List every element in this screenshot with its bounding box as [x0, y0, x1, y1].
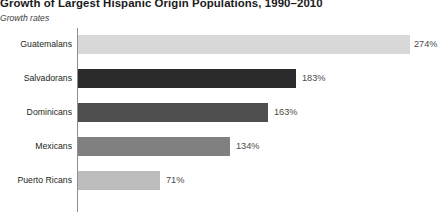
category-label: Guatemalans [20, 39, 72, 50]
value-label: 71% [166, 175, 184, 186]
bar-salvadorans [78, 69, 296, 88]
chart-title: Growth of Largest Hispanic Origin Popula… [0, 0, 446, 10]
bar-row: Dominicans 163% [0, 101, 446, 134]
category-label: Mexicans [35, 141, 72, 152]
bar-row: Guatemalans 274% [0, 33, 446, 66]
category-label: Salvadorans [24, 73, 72, 84]
bar-guatemalans [78, 35, 410, 54]
bar-chart-figure: Growth of Largest Hispanic Origin Popula… [0, 0, 446, 212]
bar-puerto-ricans [78, 171, 160, 190]
category-label: Puerto Ricans [17, 175, 72, 186]
bar-row: Puerto Ricans 71% [0, 169, 446, 202]
bar-row: Mexicans 134% [0, 135, 446, 168]
bar-row: Salvadorans 183% [0, 67, 446, 100]
value-label: 134% [236, 141, 260, 152]
category-label: Dominicans [27, 107, 72, 118]
bar-dominicans [78, 103, 268, 122]
bar-mexicans [78, 137, 230, 156]
chart-subtitle: Growth rates [0, 13, 49, 24]
value-label: 274% [414, 39, 438, 50]
plot-area: Guatemalans 274% Salvadorans 183% Domini… [0, 28, 446, 212]
value-label: 183% [302, 73, 326, 84]
value-label: 163% [274, 107, 298, 118]
